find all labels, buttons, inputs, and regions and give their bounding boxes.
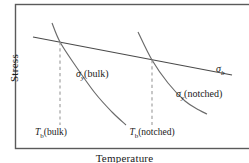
sigma-y-bulk-label: σy(bulk) <box>76 68 109 79</box>
sigma-b-label: σb <box>216 63 224 74</box>
x-tick-label-tb-notched: Tb(notched) <box>129 127 174 137</box>
y-axis-title: Stress <box>8 38 20 98</box>
x-axis-title: Temperature <box>0 152 249 163</box>
tb-notched-suffix: (notched) <box>138 127 174 137</box>
chart-figure: Stress Temperature σb σy(bulk) σy(notche… <box>0 0 249 163</box>
sigma-b-subscript: b <box>221 69 225 77</box>
tb-bulk-suffix: (bulk) <box>44 127 67 137</box>
sigma-y-notched-suffix: (notched) <box>184 88 222 99</box>
x-tick-label-tb-bulk: Tb(bulk) <box>35 127 67 137</box>
sigma-y-bulk-suffix: (bulk) <box>84 68 108 79</box>
sigma-y-notched-label: σy(notched) <box>176 88 222 99</box>
plot-canvas <box>0 0 249 163</box>
